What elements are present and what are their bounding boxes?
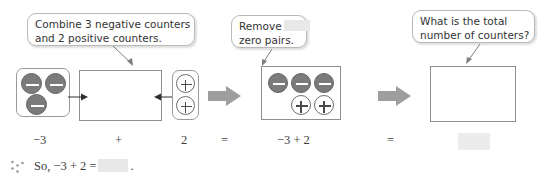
positive-counter-icon bbox=[314, 95, 334, 115]
negative-counter-icon bbox=[21, 73, 42, 94]
worksheet-diagram: Combine 3 negative counters and 2 positi… bbox=[0, 0, 549, 188]
final-statement: So, −3 + 2 =. bbox=[34, 159, 134, 174]
negative-counter-icon bbox=[268, 73, 288, 93]
remove-count-blank[interactable] bbox=[284, 20, 310, 31]
label-equals-first: = bbox=[221, 133, 228, 147]
positive-counter-icon bbox=[176, 74, 195, 93]
plus-glyph-horizontal bbox=[319, 105, 331, 107]
callout-remove-verb: Remove bbox=[239, 20, 282, 32]
callout-combine: Combine 3 negative counters and 2 positi… bbox=[27, 13, 195, 46]
plus-glyph-horizontal bbox=[181, 84, 192, 86]
callout-total-line2: number of counters? bbox=[420, 29, 527, 43]
positive-counter-icon bbox=[176, 96, 195, 115]
plus-glyph-vertical bbox=[185, 102, 187, 113]
total-answer-blank[interactable] bbox=[458, 133, 490, 150]
callout-total: What is the total number of counters? bbox=[412, 10, 535, 43]
minus-glyph bbox=[296, 83, 308, 85]
plus-glyph-vertical bbox=[300, 101, 302, 113]
zero-pairs-box bbox=[261, 66, 341, 120]
callout-combine-line1: Combine 3 negative counters bbox=[35, 18, 187, 32]
dot-cluster-icon bbox=[10, 159, 28, 175]
final-answer-blank[interactable] bbox=[98, 159, 128, 172]
plus-glyph-vertical bbox=[185, 80, 187, 91]
total-answer-box[interactable] bbox=[430, 66, 516, 122]
label-equals-second: = bbox=[387, 133, 394, 147]
plus-glyph-vertical bbox=[323, 101, 325, 113]
plus-glyph-horizontal bbox=[296, 105, 308, 107]
minus-glyph bbox=[273, 83, 285, 85]
minus-glyph bbox=[319, 83, 331, 85]
negative-counter-icon bbox=[26, 94, 47, 115]
label-plus: + bbox=[115, 133, 122, 147]
arrow-right-into-box bbox=[152, 92, 174, 102]
callout-remove-line2: zero pairs. bbox=[239, 34, 299, 48]
negative-counter-icon bbox=[291, 73, 311, 93]
minus-glyph bbox=[26, 84, 39, 87]
minus-glyph bbox=[50, 84, 63, 87]
negative-counter-icon bbox=[45, 73, 66, 94]
minus-glyph bbox=[31, 105, 44, 108]
negative-counter-icon bbox=[314, 73, 334, 93]
final-statement-prefix: So, −3 + 2 = bbox=[34, 159, 96, 173]
positive-counter-icon bbox=[291, 95, 311, 115]
arrow-left-into-box bbox=[68, 92, 90, 102]
final-statement-period: . bbox=[130, 159, 133, 173]
combine-empty-box[interactable] bbox=[79, 70, 162, 121]
leader-arrow-combine bbox=[110, 44, 150, 70]
positive-counter-group bbox=[172, 70, 199, 120]
step-arrow-icon bbox=[208, 85, 242, 107]
negative-counter-group bbox=[16, 68, 70, 117]
callout-total-line1: What is the total bbox=[420, 15, 527, 29]
label-minus-three: −3 bbox=[33, 133, 46, 147]
label-two: 2 bbox=[181, 133, 187, 147]
plus-glyph-horizontal bbox=[181, 106, 192, 108]
callout-remove-line1: Remove bbox=[239, 20, 299, 34]
callout-combine-line2: and 2 positive counters. bbox=[35, 32, 187, 46]
step-arrow-icon bbox=[378, 85, 412, 107]
label-expression: −3 + 2 bbox=[277, 133, 310, 147]
callout-remove: Remove zero pairs. bbox=[231, 15, 307, 48]
leader-arrow-total bbox=[462, 42, 492, 68]
